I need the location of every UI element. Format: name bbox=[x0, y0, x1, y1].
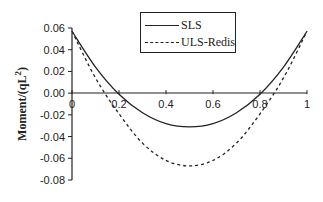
legend-label-sls: SLS bbox=[181, 18, 202, 33]
y-tick-label: -0.06 bbox=[40, 152, 65, 164]
x-tick-label: 0.4 bbox=[158, 98, 173, 110]
y-tick-label: 0.02 bbox=[44, 65, 65, 77]
y-axis-ticks: 0.060.040.020.00-0.02-0.04-0.06-0.08 bbox=[40, 22, 72, 186]
chart-legend: SLS ULS-Redis bbox=[140, 12, 236, 53]
y-tick-label: 0.00 bbox=[44, 87, 65, 99]
y-tick-label: -0.04 bbox=[40, 131, 65, 143]
y-tick-label: -0.08 bbox=[40, 174, 65, 186]
solid-line-swatch-icon bbox=[145, 25, 179, 26]
x-tick-label: 1 bbox=[304, 98, 310, 110]
y-tick-label: -0.02 bbox=[40, 109, 65, 121]
y-tick-label: 0.04 bbox=[44, 44, 65, 56]
y-tick-label: 0.06 bbox=[44, 22, 65, 34]
y-axis-label: Moment/(qL2) bbox=[13, 67, 29, 141]
dashed-line-swatch-icon bbox=[145, 42, 179, 43]
legend-item-sls: SLS bbox=[145, 18, 202, 32]
legend-item-uls-redis: ULS-Redis bbox=[145, 35, 235, 49]
legend-label-uls-redis: ULS-Redis bbox=[181, 35, 235, 50]
x-tick-label: 0.6 bbox=[205, 98, 220, 110]
